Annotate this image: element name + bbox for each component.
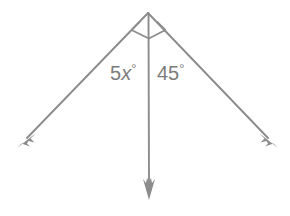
left-ray-arrowhead-icon <box>17 133 36 148</box>
right-angle-label: 45° <box>157 61 184 84</box>
right-angle-degree-symbol: ° <box>179 61 184 76</box>
left-angle-degree-symbol: ° <box>131 61 136 76</box>
left-angle-mark <box>132 30 149 39</box>
geometry-diagram: 5x° 45° <box>0 0 290 216</box>
vertical-ray <box>143 13 155 200</box>
left-angle-coefficient: 5 <box>110 62 121 84</box>
left-angle-label: 5x° <box>110 61 136 84</box>
right-angle-mark-outer <box>157 22 166 31</box>
right-angle-mark <box>149 30 166 39</box>
left-angle-mark-outer <box>132 22 141 31</box>
right-ray-arrowhead-icon <box>259 133 278 148</box>
right-angle-value: 45 <box>157 62 179 84</box>
angle-figure-svg: 5x° 45° <box>0 0 290 216</box>
